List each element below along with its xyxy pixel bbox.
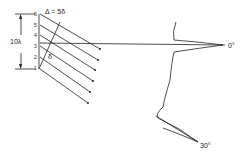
element-6: 6 xyxy=(34,12,37,17)
element-3: 3 xyxy=(34,44,37,49)
delta-spacing-label: Δ = 5δ xyxy=(45,8,65,15)
element-2: 2 xyxy=(34,55,37,60)
element-5: 5 xyxy=(34,23,37,28)
arrow-down-icon xyxy=(19,64,22,69)
array-diagram xyxy=(0,0,250,159)
element-1: 1 xyxy=(34,66,37,71)
aperture-label: 10λ xyxy=(10,38,21,45)
angle-0-label: 0° xyxy=(228,42,235,49)
angle-30-label: 30° xyxy=(200,142,211,149)
pattern-lobe-0deg xyxy=(163,22,223,107)
pattern-lobe-30deg xyxy=(157,107,198,142)
arrow-up-icon xyxy=(19,14,22,19)
delta-label: δ xyxy=(48,53,52,60)
boresight-line xyxy=(40,43,225,45)
element-4: 4 xyxy=(34,33,37,38)
